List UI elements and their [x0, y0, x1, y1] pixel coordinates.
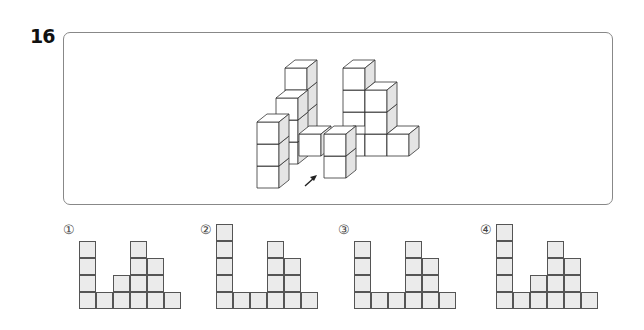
- grid-cell: [581, 292, 598, 309]
- grid-cell: [284, 258, 301, 275]
- grid-cell: [547, 275, 564, 292]
- grid-cell: [354, 275, 371, 292]
- grid-cell: [147, 275, 164, 292]
- grid-cell: [233, 292, 250, 309]
- grid-cell: [130, 292, 147, 309]
- grid-cell: [371, 292, 388, 309]
- grid-cell: [405, 292, 422, 309]
- grid-cell: [147, 258, 164, 275]
- grid-cell: [422, 258, 439, 275]
- grid-cell: [267, 258, 284, 275]
- grid-cell: [405, 275, 422, 292]
- option-label[interactable]: ①: [63, 222, 75, 237]
- grid-cell: [354, 258, 371, 275]
- grid-cell: [113, 275, 130, 292]
- option-label[interactable]: ③: [338, 222, 350, 237]
- grid-cell: [496, 224, 513, 241]
- grid-cell: [267, 241, 284, 258]
- grid-cell: [530, 292, 547, 309]
- grid-cell: [422, 275, 439, 292]
- grid-cell: [284, 292, 301, 309]
- option-label[interactable]: ④: [480, 222, 492, 237]
- grid-cell: [496, 275, 513, 292]
- grid-cell: [216, 275, 233, 292]
- grid-cell: [113, 292, 130, 309]
- grid-cell: [439, 292, 456, 309]
- option-label[interactable]: ②: [200, 222, 212, 237]
- grid-cell: [496, 241, 513, 258]
- grid-cell: [547, 241, 564, 258]
- grid-cell: [547, 292, 564, 309]
- grid-cell: [547, 258, 564, 275]
- grid-cell: [130, 258, 147, 275]
- grid-cell: [164, 292, 181, 309]
- grid-cell: [354, 292, 371, 309]
- grid-cell: [96, 292, 113, 309]
- grid-cell: [564, 258, 581, 275]
- grid-cell: [130, 241, 147, 258]
- grid-cell: [388, 292, 405, 309]
- grid-cell: [79, 292, 96, 309]
- grid-cell: [79, 275, 96, 292]
- grid-cell: [216, 258, 233, 275]
- grid-cell: [79, 241, 96, 258]
- grid-cell: [284, 275, 301, 292]
- grid-cell: [216, 292, 233, 309]
- grid-cell: [267, 292, 284, 309]
- grid-cell: [147, 292, 164, 309]
- grid-cell: [405, 241, 422, 258]
- grid-cell: [267, 275, 284, 292]
- grid-cell: [405, 258, 422, 275]
- grid-cell: [564, 292, 581, 309]
- grid-cell: [354, 241, 371, 258]
- grid-cell: [422, 292, 439, 309]
- grid-cell: [250, 292, 267, 309]
- grid-cell: [301, 292, 318, 309]
- grid-cell: [216, 224, 233, 241]
- grid-cell: [496, 292, 513, 309]
- grid-cell: [130, 275, 147, 292]
- grid-cell: [564, 275, 581, 292]
- grid-cell: [530, 275, 547, 292]
- grid-cell: [79, 258, 96, 275]
- grid-cell: [216, 241, 233, 258]
- grid-cell: [513, 292, 530, 309]
- grid-cell: [496, 258, 513, 275]
